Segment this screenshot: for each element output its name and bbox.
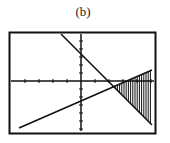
increasing-line [19, 70, 152, 128]
axis-ticks [25, 41, 151, 129]
calculator-graph [0, 0, 170, 143]
frame [10, 33, 156, 134]
decreasing-line [61, 34, 152, 125]
